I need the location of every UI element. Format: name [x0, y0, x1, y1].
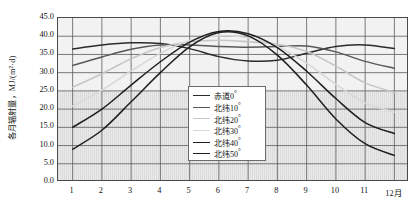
legend-item-label: 赤道0°	[214, 90, 237, 101]
legend-item: 北纬40°	[193, 136, 261, 148]
x-axis-tick-label: 11	[360, 186, 368, 195]
legend-item: 北纬50°	[193, 148, 261, 160]
y-axis-tick-label: 25.0	[22, 86, 54, 94]
legend-item-label: 北纬30°	[214, 125, 241, 136]
legend-item-label: 北纬10°	[214, 102, 241, 113]
x-axis-tick-label: 1	[70, 186, 74, 195]
y-axis-tick-label: 20.0	[22, 104, 54, 112]
y-axis-tick-label: 15.0	[22, 122, 54, 130]
x-axis-tick-labels: 123456789101112月	[0, 184, 417, 204]
legend-item: 北纬30°	[193, 125, 261, 137]
y-axis-tick-label: 30.0	[22, 68, 54, 76]
legend-item: 赤道0°	[193, 90, 261, 102]
x-axis-tick-label: 12月	[385, 186, 401, 198]
legend-color-swatch	[193, 130, 210, 131]
y-axis-title: 各月辐射量，MJ/(m²·d)	[5, 13, 17, 183]
legend-item-label: 北纬20°	[214, 114, 241, 125]
legend: 赤道0°北纬10°北纬20°北纬30°北纬40°北纬50°	[188, 86, 266, 161]
legend-item: 北纬10°	[193, 102, 261, 114]
x-axis-tick-label: 4	[157, 186, 161, 195]
legend-color-swatch	[193, 153, 210, 154]
chart-figure: 各月辐射量，MJ/(m²·d) 45.040.035.030.025.020.0…	[0, 0, 417, 211]
x-axis-tick-label: 5	[187, 186, 191, 195]
legend-item-label: 北纬50°	[214, 148, 241, 159]
legend-item: 北纬20°	[193, 113, 261, 125]
legend-color-swatch	[193, 107, 210, 108]
legend-color-swatch	[193, 142, 210, 143]
x-axis-tick-label: 9	[304, 186, 308, 195]
y-axis-tick-label: 10.0	[22, 141, 54, 149]
legend-color-swatch	[193, 118, 210, 119]
legend-item-label: 北纬40°	[214, 137, 241, 148]
y-axis-tick-label: 45.0	[22, 13, 54, 21]
legend-color-swatch	[193, 95, 210, 96]
x-axis-tick-label: 10	[331, 186, 339, 195]
x-axis-tick-label: 8	[274, 186, 278, 195]
y-axis-tick-label: 5.0	[22, 159, 54, 167]
y-axis-tick-labels: 45.040.035.030.025.020.015.010.05.00.0	[22, 0, 54, 211]
x-axis-tick-label: 3	[128, 186, 132, 195]
y-axis-tick-label: 40.0	[22, 31, 54, 39]
x-axis-tick-label: 7	[245, 186, 249, 195]
y-axis-tick-label: 35.0	[22, 49, 54, 57]
x-axis-tick-label: 2	[99, 186, 103, 195]
x-axis-tick-label: 6	[216, 186, 220, 195]
